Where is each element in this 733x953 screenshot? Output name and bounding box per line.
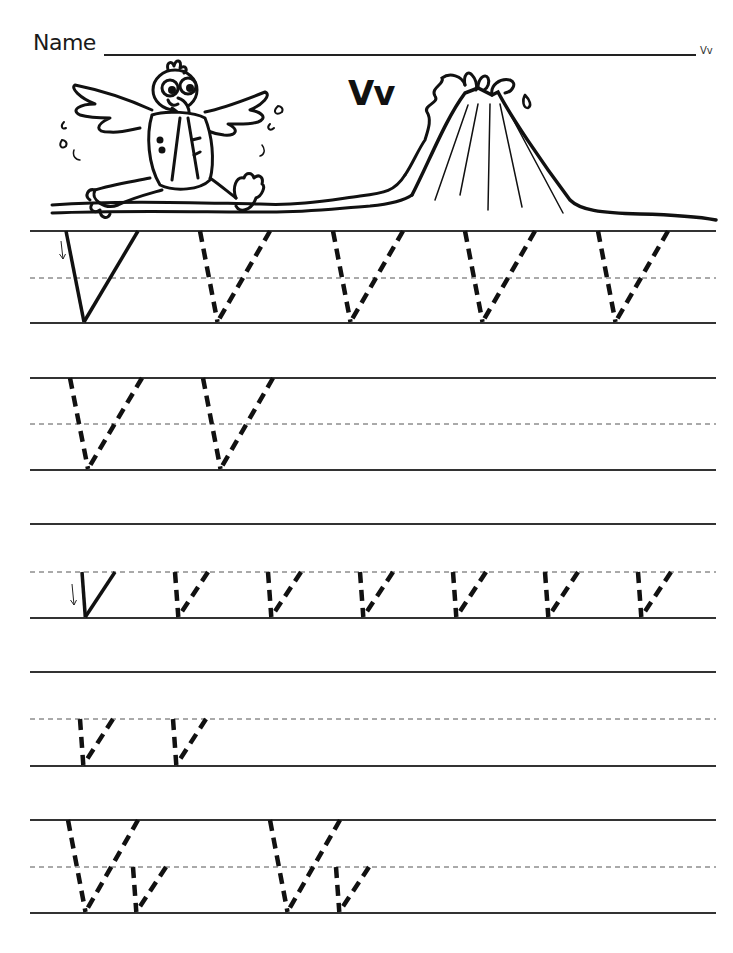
letter-stroke-right bbox=[288, 820, 341, 912]
trace-letter-lowercase-v[interactable] bbox=[360, 572, 393, 617]
letter-stroke-left bbox=[175, 572, 178, 617]
letter-stroke-right bbox=[136, 867, 166, 912]
letter-stroke-right bbox=[176, 719, 206, 765]
letter-stroke-right bbox=[218, 231, 271, 322]
writing-row[interactable] bbox=[30, 231, 716, 323]
model-letter-lowercase-v bbox=[82, 572, 115, 617]
letter-stroke-left bbox=[270, 820, 288, 912]
letter-stroke-right bbox=[85, 572, 115, 617]
letter-stroke-right bbox=[548, 572, 578, 617]
letter-stroke-left bbox=[200, 231, 218, 322]
letter-stroke-left bbox=[173, 719, 176, 765]
trace-letter-lowercase-v[interactable] bbox=[80, 719, 113, 765]
letter-stroke-right bbox=[641, 572, 671, 617]
letter-stroke-right bbox=[483, 231, 536, 322]
trace-letter-lowercase-v[interactable] bbox=[638, 572, 671, 617]
letter-stroke-left bbox=[268, 572, 271, 617]
trace-letter-lowercase-v[interactable] bbox=[175, 572, 208, 617]
letter-stroke-left bbox=[598, 231, 616, 322]
letter-stroke-left bbox=[545, 572, 548, 617]
letter-stroke-left bbox=[133, 867, 136, 912]
stroke-direction-arrow-icon bbox=[60, 241, 66, 259]
trace-letter-uppercase-v[interactable] bbox=[200, 231, 270, 322]
trace-letter-uppercase-v[interactable] bbox=[598, 231, 668, 322]
writing-row[interactable] bbox=[30, 378, 716, 470]
letter-stroke-left bbox=[333, 231, 351, 322]
letter-stroke-left bbox=[465, 231, 483, 322]
letter-stroke-right bbox=[178, 572, 208, 617]
letter-stroke-left bbox=[638, 572, 641, 617]
letter-stroke-right bbox=[351, 231, 404, 322]
trace-letter-lowercase-v[interactable] bbox=[173, 719, 206, 765]
letter-stroke-right bbox=[339, 867, 369, 912]
letter-stroke-right bbox=[271, 572, 301, 617]
trace-letter-uppercase-v[interactable] bbox=[465, 231, 535, 322]
letter-stroke-right bbox=[616, 231, 669, 322]
trace-letter-uppercase-v[interactable] bbox=[270, 820, 340, 912]
handwriting-practice-area[interactable] bbox=[0, 0, 733, 953]
letter-stroke-left bbox=[66, 231, 84, 322]
letter-stroke-left bbox=[336, 867, 339, 912]
trace-letter-uppercase-v[interactable] bbox=[68, 820, 138, 912]
trace-letter-lowercase-v[interactable] bbox=[268, 572, 301, 617]
model-letter-uppercase-v bbox=[66, 231, 138, 322]
trace-letter-lowercase-v[interactable] bbox=[336, 867, 369, 912]
trace-letter-uppercase-v[interactable] bbox=[333, 231, 403, 322]
letter-stroke-left bbox=[453, 572, 456, 617]
letter-stroke-left bbox=[360, 572, 363, 617]
writing-row[interactable] bbox=[30, 820, 716, 913]
letter-stroke-left bbox=[68, 820, 86, 912]
letter-stroke-left bbox=[82, 572, 85, 617]
stroke-direction-arrow-icon bbox=[71, 584, 77, 605]
trace-letter-lowercase-v[interactable] bbox=[545, 572, 578, 617]
letter-stroke-right bbox=[363, 572, 393, 617]
letter-stroke-right bbox=[456, 572, 486, 617]
letter-stroke-left bbox=[80, 719, 83, 765]
letter-stroke-right bbox=[84, 231, 138, 322]
trace-letter-lowercase-v[interactable] bbox=[453, 572, 486, 617]
letter-stroke-right bbox=[83, 719, 113, 765]
writing-row[interactable] bbox=[30, 524, 716, 618]
writing-row[interactable] bbox=[30, 672, 716, 766]
letter-stroke-right bbox=[86, 820, 139, 912]
trace-letter-lowercase-v[interactable] bbox=[133, 867, 166, 912]
